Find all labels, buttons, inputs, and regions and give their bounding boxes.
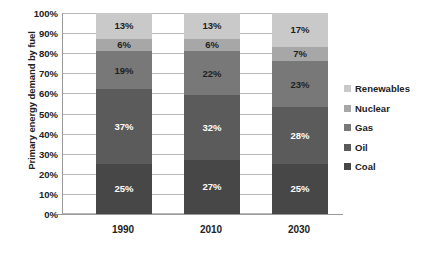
bar-segment-nuclear-2030[interactable]: 7% <box>272 47 328 61</box>
legend-label: Oil <box>355 142 368 153</box>
x-axis-tick-label-2010: 2010 <box>183 224 239 235</box>
bar-segment-label: 25% <box>114 184 133 194</box>
legend-label: Nuclear <box>355 103 390 114</box>
bar-2010[interactable]: 13%6%22%32%27% <box>184 13 240 214</box>
y-axis-tick-label: 0% <box>18 209 58 220</box>
bar-segment-label: 13% <box>114 21 133 31</box>
y-axis-tick-label: 70% <box>18 68 58 79</box>
x-axis-line <box>57 214 343 215</box>
bar-segment-label: 25% <box>290 184 309 194</box>
legend-item-gas[interactable]: Gas <box>344 118 422 138</box>
x-axis-tick-label-1990: 1990 <box>95 224 151 235</box>
y-axis-tick-label: 10% <box>18 188 58 199</box>
bar-2030[interactable]: 17%7%23%28%25% <box>272 13 328 214</box>
bar-segment-oil-1990[interactable]: 37% <box>96 89 152 163</box>
bar-segment-label: 28% <box>290 131 309 141</box>
bar-segment-nuclear-2010[interactable]: 6% <box>184 39 240 51</box>
y-axis-tick-label: 60% <box>18 88 58 99</box>
bar-segment-label: 19% <box>114 66 133 76</box>
bar-segment-label: 32% <box>202 123 221 133</box>
bar-segment-label: 7% <box>293 49 307 59</box>
x-axis-tick-labels: 199020102030 <box>62 224 318 244</box>
y-axis-tick-label: 50% <box>18 108 58 119</box>
y-axis-tick-label: 30% <box>18 148 58 159</box>
y-axis-tick-label: 80% <box>18 48 58 59</box>
legend-item-oil[interactable]: Oil <box>344 138 422 158</box>
bar-segment-gas-2010[interactable]: 22% <box>184 51 240 95</box>
legend-label: Coal <box>355 161 376 172</box>
legend-swatch-icon <box>344 144 351 151</box>
bar-segment-renewables-1990[interactable]: 13% <box>96 13 152 39</box>
bar-segment-nuclear-1990[interactable]: 6% <box>96 39 152 51</box>
bar-segment-label: 37% <box>114 122 133 132</box>
legend-item-renewables[interactable]: Renewables <box>344 79 422 99</box>
y-axis-tick-label: 100% <box>18 8 58 19</box>
y-axis-tick-labels: 100%90%80%70%60%50%40%30%20%10%0% <box>18 8 58 214</box>
bar-segment-renewables-2030[interactable]: 17% <box>272 13 328 47</box>
y-axis-tick-label: 90% <box>18 28 58 39</box>
bar-segment-coal-1990[interactable]: 25% <box>96 164 152 214</box>
bar-segment-label: 6% <box>205 40 219 50</box>
legend-item-nuclear[interactable]: Nuclear <box>344 99 422 119</box>
bar-segment-gas-1990[interactable]: 19% <box>96 51 152 89</box>
legend-label: Renewables <box>355 83 410 94</box>
bar-1990[interactable]: 13%6%19%37%25% <box>96 13 152 214</box>
bar-segment-gas-2030[interactable]: 23% <box>272 61 328 107</box>
bar-segment-label: 27% <box>202 182 221 192</box>
legend-swatch-icon <box>344 85 351 92</box>
legend-swatch-icon <box>344 124 351 131</box>
y-axis-tick-label: 20% <box>18 168 58 179</box>
bar-segment-coal-2030[interactable]: 25% <box>272 164 328 214</box>
bar-segment-label: 6% <box>117 40 131 50</box>
plot-area: 13%6%19%37%25% 13%6%22%32%27% 17%7%23%28… <box>62 13 319 214</box>
legend-swatch-icon <box>344 163 351 170</box>
legend-item-coal[interactable]: Coal <box>344 157 422 177</box>
bar-segment-oil-2030[interactable]: 28% <box>272 107 328 163</box>
bar-segment-label: 22% <box>202 69 221 79</box>
bar-segment-label: 23% <box>290 80 309 90</box>
chart-legend: RenewablesNuclearGasOilCoal <box>344 79 422 177</box>
bar-segment-label: 13% <box>202 21 221 31</box>
legend-swatch-icon <box>344 105 351 112</box>
bar-segment-renewables-2010[interactable]: 13% <box>184 13 240 39</box>
bar-segment-coal-2010[interactable]: 27% <box>184 160 240 214</box>
legend-label: Gas <box>355 122 373 133</box>
bar-segment-oil-2010[interactable]: 32% <box>184 95 240 159</box>
y-axis-tick-label: 40% <box>18 128 58 139</box>
x-axis-tick-label-2030: 2030 <box>271 224 327 235</box>
bar-segment-label: 17% <box>290 25 309 35</box>
stacked-bar-chart: Primary energy demand by fuel 100%90%80%… <box>0 0 422 254</box>
